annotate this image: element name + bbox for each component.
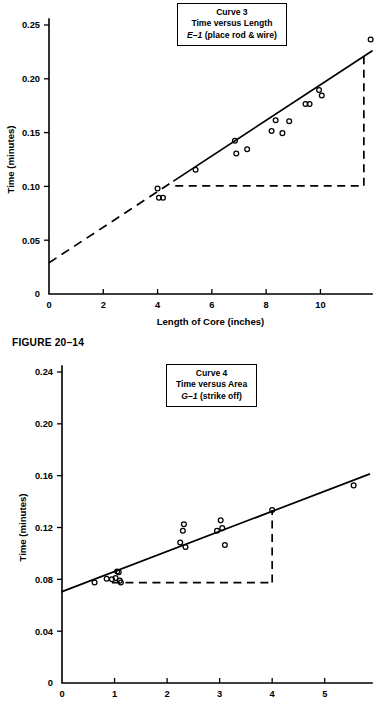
chart1-svg-data-point: [234, 151, 239, 156]
chart2-svg-axes: [62, 366, 372, 683]
chart2-svg-xtick-label: 5: [322, 689, 327, 699]
chart2-svg-data-point: [218, 518, 223, 523]
chart2-svg-data-point: [92, 580, 97, 585]
chart-curve-4-title-line-2: Time versus Area: [176, 379, 247, 390]
chart1-svg-data-point: [319, 93, 324, 98]
chart-curve-4-title-line-1: Curve 4: [176, 368, 247, 379]
chart2-svg-xtick-label: 2: [164, 689, 169, 699]
chart2-svg-ytick-label: 0.12: [35, 523, 53, 533]
chart1-svg-data-point: [155, 186, 160, 191]
chart2-svg-data-point: [178, 540, 183, 545]
chart1-svg-ytick-label: 0.10: [22, 182, 40, 192]
chart1-svg-ytick-label: 0.20: [22, 74, 40, 84]
chart1-svg-data-point: [273, 118, 278, 123]
chart-curve-4-title-box: Curve 4 Time versus Area G–1 (strike off…: [166, 364, 257, 407]
chart1-svg-xtick-label: 6: [209, 300, 214, 310]
chart2-svg-xtick-label: 4: [270, 689, 276, 699]
chart-curve-3-code-rest: (place rod & wire): [202, 30, 277, 40]
chart2-svg-xtick-label: 3: [217, 689, 222, 699]
chart1-svg-x-axis-title: Length of Core (inches): [157, 316, 265, 327]
chart2-svg-data-point: [104, 576, 109, 581]
chart-curve-3-title-box: Curve 3 Time versus Length E–1 (place ro…: [177, 3, 287, 46]
chart1-svg-xtick-label: 2: [101, 300, 106, 310]
chart1-svg-y-axis-title: Time (minutes): [5, 125, 16, 193]
chart-curve-3-title-line-3: E–1 (place rod & wire): [187, 30, 277, 41]
chart2-svg-xtick-label: 1: [112, 689, 117, 699]
chart2-svg-ytick-label: 0.24: [35, 367, 54, 377]
chart2-svg-ytick-label: 0.04: [35, 627, 54, 637]
chart1-svg-fit-line-extrapolated: [49, 181, 174, 263]
chart-curve-4-code-rest: (strike off): [198, 391, 242, 401]
chart1-svg-data-point: [368, 37, 373, 42]
chart2-svg-y-axis-title: Time (minutes): [17, 493, 28, 561]
chart1-svg-xtick-label: 0: [46, 300, 51, 310]
chart2-svg-data-point: [222, 543, 227, 548]
chart2-svg-ytick-label: 0.20: [35, 419, 53, 429]
chart-curve-3-code: E–1: [187, 30, 202, 40]
chart-curve-4-title-line-3: G–1 (strike off): [176, 391, 247, 402]
figure-caption: FIGURE 20–14: [12, 337, 84, 348]
chart-curve-3-canvas: 00.050.100.150.200.250246810Time (minute…: [0, 0, 377, 330]
chart2-svg-ytick-label: 0: [48, 678, 53, 688]
chart1-svg-ytick-label: 0.15: [22, 128, 40, 138]
chart1-svg-data-point: [269, 129, 274, 134]
chart2-svg-xtick-label: 0: [59, 689, 64, 699]
chart-curve-3: 00.050.100.150.200.250246810Time (minute…: [0, 0, 377, 330]
chart1-svg-data-point: [245, 147, 250, 152]
chart1-svg-data-point: [317, 88, 322, 93]
chart-curve-4-code: G–1: [181, 391, 197, 401]
chart1-svg-xtick-label: 4: [155, 300, 161, 310]
chart1-svg-data-point: [280, 131, 285, 136]
chart-curve-3-title-line-2: Time versus Length: [187, 18, 277, 29]
chart-curve-4-canvas: 00.040.080.120.160.200.24012345Time (min…: [0, 355, 377, 715]
chart1-svg-ytick-label: 0: [35, 289, 40, 299]
chart2-svg-ytick-label: 0.16: [35, 471, 53, 481]
chart1-svg-ytick-label: 0.05: [22, 236, 40, 246]
chart1-svg-fit-line: [174, 51, 372, 181]
chart2-svg-data-point: [351, 483, 356, 488]
chart2-svg-ytick-label: 0.08: [35, 575, 53, 585]
chart1-svg-xtick-label: 8: [264, 300, 269, 310]
chart1-svg-xtick-label: 10: [315, 300, 325, 310]
chart2-svg-data-point: [181, 522, 186, 527]
chart1-svg-ytick-label: 0.25: [22, 20, 40, 30]
chart1-svg-data-point: [287, 119, 292, 124]
chart1-svg-data-point: [193, 167, 198, 172]
chart-curve-4: 00.040.080.120.160.200.24012345Time (min…: [0, 355, 377, 715]
chart-curve-3-title-line-1: Curve 3: [187, 7, 277, 18]
figure-20-14: 00.050.100.150.200.250246810Time (minute…: [0, 0, 377, 715]
chart2-svg-data-point: [180, 528, 185, 533]
